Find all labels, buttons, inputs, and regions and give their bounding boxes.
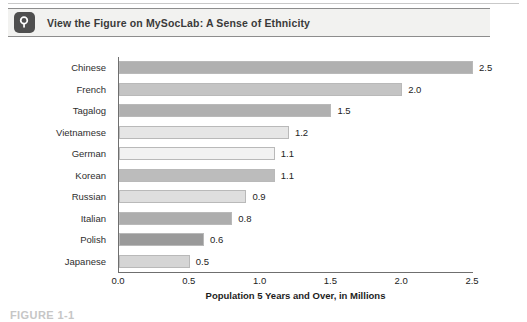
bar-container: 1.1 <box>119 147 294 160</box>
x-axis-line <box>118 272 473 273</box>
bar-container: 2.0 <box>119 83 421 96</box>
x-tick-label: 1.5 <box>324 275 337 286</box>
bar-container: 2.5 <box>119 61 492 74</box>
bar <box>119 147 275 160</box>
bar-category-label: Russian <box>0 191 106 202</box>
x-tick-label: 1.0 <box>253 275 266 286</box>
bar-value-label: 1.1 <box>281 148 294 159</box>
bar <box>119 212 232 225</box>
bar-container: 0.9 <box>119 190 266 203</box>
bar-row: Tagalog1.5 <box>0 100 527 122</box>
bar-rows: Chinese2.5French2.0Tagalog1.5Vietnamese1… <box>0 57 527 272</box>
banner-title: View the Figure on MySocLab: A Sense of … <box>47 17 310 29</box>
bar-row: Vietnamese1.2 <box>0 122 527 144</box>
x-tick-label: 0.0 <box>111 275 124 286</box>
bar-category-label: French <box>0 84 106 95</box>
bar-category-label: Japanese <box>0 256 106 267</box>
bar-container: 0.6 <box>119 233 223 246</box>
bar <box>119 255 190 268</box>
mysoclab-banner[interactable]: View the Figure on MySocLab: A Sense of … <box>8 8 490 37</box>
bar-container: 0.8 <box>119 212 251 225</box>
bar-category-label: Tagalog <box>0 105 106 116</box>
x-axis-ticks: 0.00.51.01.52.02.5 <box>0 275 527 291</box>
x-axis-title: Population 5 Years and Over, in Millions <box>118 290 473 301</box>
bar-value-label: 1.2 <box>295 127 308 138</box>
bar <box>119 169 275 182</box>
bar-row: Russian0.9 <box>0 186 527 208</box>
bar-category-label: Korean <box>0 170 106 181</box>
bar-row: Korean1.1 <box>0 165 527 187</box>
bar <box>119 83 402 96</box>
bar-category-label: German <box>0 148 106 159</box>
bar <box>119 61 473 74</box>
magnifier-icon <box>14 12 35 33</box>
bar-category-label: Vietnamese <box>0 127 106 138</box>
bar <box>119 190 246 203</box>
bar-row: Polish0.6 <box>0 229 527 251</box>
bar-row: German1.1 <box>0 143 527 165</box>
bar-value-label: 0.5 <box>196 256 209 267</box>
top-divider <box>8 3 519 4</box>
bar-value-label: 0.8 <box>238 213 251 224</box>
bar <box>119 104 331 117</box>
bar-value-label: 1.5 <box>337 105 350 116</box>
bar-value-label: 0.6 <box>210 234 223 245</box>
bar-row: Japanese0.5 <box>0 251 527 273</box>
bar-container: 1.1 <box>119 169 294 182</box>
bar-container: 1.2 <box>119 126 308 139</box>
bar-category-label: Polish <box>0 234 106 245</box>
x-tick-label: 2.5 <box>465 275 478 286</box>
bar <box>119 126 289 139</box>
bar-category-label: Italian <box>0 213 106 224</box>
bar-value-label: 0.9 <box>252 191 265 202</box>
bar-row: Chinese2.5 <box>0 57 527 79</box>
bar-category-label: Chinese <box>0 62 106 73</box>
bar <box>119 233 204 246</box>
bar-row: French2.0 <box>0 79 527 101</box>
x-tick-label: 0.5 <box>182 275 195 286</box>
bar-container: 0.5 <box>119 255 209 268</box>
figure-caption: FIGURE 1-1 <box>10 309 75 321</box>
bar-chart: Chinese2.5French2.0Tagalog1.5Vietnamese1… <box>0 44 527 294</box>
bar-value-label: 2.0 <box>408 84 421 95</box>
x-tick-label: 2.0 <box>395 275 408 286</box>
bar-value-label: 1.1 <box>281 170 294 181</box>
bar-value-label: 2.5 <box>479 62 492 73</box>
bar-container: 1.5 <box>119 104 351 117</box>
bar-row: Italian0.8 <box>0 208 527 230</box>
